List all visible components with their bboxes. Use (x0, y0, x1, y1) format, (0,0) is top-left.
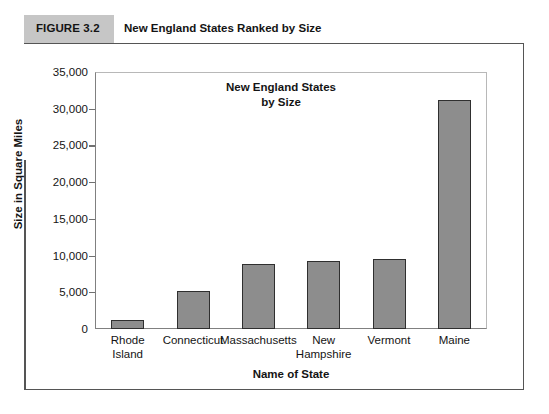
figure-header: FIGURE 3.2 New England States Ranked by … (24, 15, 522, 45)
y-axis-tick-label: 30,000 (30, 103, 88, 115)
bar (242, 264, 275, 329)
y-axis-tick-mark (89, 109, 95, 110)
bar (307, 261, 340, 329)
y-axis-title: Size in Square Miles (12, 84, 24, 264)
bar (111, 320, 144, 329)
y-axis-tick-label: 10,000 (30, 250, 88, 262)
x-axis-tick-label-line: Hampshire (281, 347, 367, 361)
y-axis-tick-mark (89, 145, 95, 146)
chart-frame-left-edge (24, 160, 26, 390)
bar (177, 291, 210, 329)
plot-area (95, 72, 487, 329)
x-axis-tick-label-line: Island (85, 347, 171, 361)
y-axis-tick-label: 0 (30, 323, 88, 335)
y-axis-tick-label: 25,000 (30, 139, 88, 151)
y-axis-tick-mark (89, 182, 95, 183)
y-axis-tick-label: 15,000 (30, 213, 88, 225)
bar (373, 259, 406, 329)
chart-title: New England States by Size (186, 80, 376, 110)
x-axis-tick-label: Maine (411, 333, 497, 347)
x-axis-tick-label-line: Maine (411, 333, 497, 347)
y-axis-tick-labels: 05,00010,00015,00020,00025,00030,00035,0… (28, 0, 88, 414)
y-axis-tick-mark (89, 292, 95, 293)
y-axis-tick-label: 5,000 (30, 286, 88, 298)
bar (438, 100, 471, 329)
y-axis-tick-mark (89, 219, 95, 220)
y-axis-tick-mark (89, 256, 95, 257)
x-axis-title: Name of State (95, 368, 487, 380)
chart-title-line-2: by Size (186, 95, 376, 110)
y-axis-tick-label: 20,000 (30, 176, 88, 188)
chart-title-line-1: New England States (186, 80, 376, 95)
y-axis-tick-label: 35,000 (30, 66, 88, 78)
figure-caption-text: New England States Ranked by Size (124, 22, 321, 34)
